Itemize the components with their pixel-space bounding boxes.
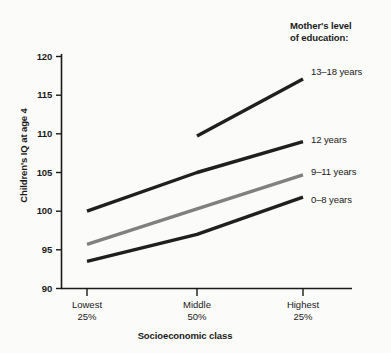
y-tick-label-105: 105	[26, 167, 52, 178]
x-tick-label-lowest-line2: 25%	[42, 311, 132, 323]
y-tick-label-100: 100	[26, 205, 52, 216]
x-tick-label-lowest-line1: Lowest	[42, 299, 132, 311]
y-axis-title: Children's IQ at age 4	[18, 86, 29, 226]
legend-title-line1: Mother's level	[290, 20, 390, 32]
x-tick-label-highest-line2: 25%	[258, 311, 348, 323]
series-label-12-years: 12 years	[311, 134, 347, 145]
series-label-9-11-years: 9–11 years	[311, 166, 356, 177]
legend-title-line2: of education:	[290, 32, 390, 44]
y-tick-label-90: 90	[26, 283, 52, 294]
x-tick-label-middle: Middle 50%	[152, 299, 242, 323]
x-tick-label-middle-line2: 50%	[152, 311, 242, 323]
x-tick-label-middle-line1: Middle	[152, 299, 242, 311]
legend-title: Mother's level of education:	[290, 20, 390, 44]
x-tick-label-highest-line1: Highest	[258, 299, 348, 311]
series-label-0-8-years: 0–8 years	[311, 194, 352, 205]
series-line-12-years	[87, 142, 303, 212]
y-tick-label-95: 95	[26, 244, 52, 255]
x-tick-label-highest: Highest 25%	[258, 299, 348, 323]
x-axis-title: Socioeconomic class	[60, 330, 310, 341]
y-tick-label-115: 115	[26, 89, 52, 100]
y-tick-label-120: 120	[26, 51, 52, 62]
chart-figure: 90 95 100 105 110 115 120 Lowest 25% Mid…	[0, 0, 391, 353]
y-tick-label-110: 110	[26, 128, 52, 139]
series-line-0-8-years	[87, 197, 303, 261]
series-line-13-18-years	[197, 79, 303, 136]
series-label-13-18-years: 13–18 years	[311, 66, 362, 77]
x-tick-label-lowest: Lowest 25%	[42, 299, 132, 323]
